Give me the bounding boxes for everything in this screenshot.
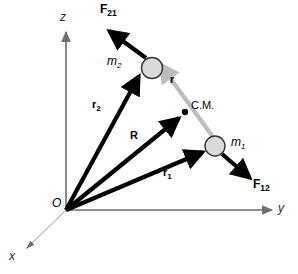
- vector-r1: [66, 152, 203, 210]
- mass-m1-subscript: 1: [241, 142, 245, 151]
- force-F12: [222, 154, 250, 178]
- origin-label: O: [52, 197, 61, 209]
- diagram-canvas: [0, 0, 298, 274]
- force-F21-subscript: 21: [107, 8, 116, 18]
- vector-r1-label: r1: [163, 167, 172, 181]
- x-axis-label: x: [9, 250, 15, 262]
- mass-m2-body: [142, 58, 163, 79]
- vector-r1-subscript: 1: [167, 172, 171, 181]
- center-of-mass-label: C.M.: [191, 100, 214, 111]
- x-axis-line: [27, 210, 66, 248]
- mass-m1-body: [205, 136, 225, 156]
- center-of-mass-group: [182, 109, 188, 115]
- vector-R: [66, 118, 179, 210]
- vector-r2: [66, 76, 139, 210]
- separation-vector-label: r: [170, 74, 174, 85]
- vector-R-label: R: [130, 130, 138, 141]
- y-axis-label: y: [278, 202, 284, 214]
- center-of-mass-dot: [182, 109, 188, 115]
- z-axis-label: z: [60, 11, 66, 23]
- force-F12-subscript: 12: [260, 183, 269, 193]
- physics-diagram: z y x O m2 m1 C.M. r2 R r1 r F21 F12: [0, 0, 298, 274]
- mass-m2-symbol: m: [107, 54, 117, 68]
- mass-m2-label: m2: [107, 55, 121, 70]
- vector-r2-subscript: 2: [96, 104, 100, 113]
- mass-m1-symbol: m: [231, 135, 241, 149]
- mass-m1-label: m1: [231, 136, 245, 151]
- force-F12-label: F12: [253, 178, 270, 193]
- vector-r2-label: r2: [92, 99, 101, 113]
- mass-m2-subscript: 2: [117, 61, 121, 70]
- force-F21-label: F21: [100, 3, 117, 18]
